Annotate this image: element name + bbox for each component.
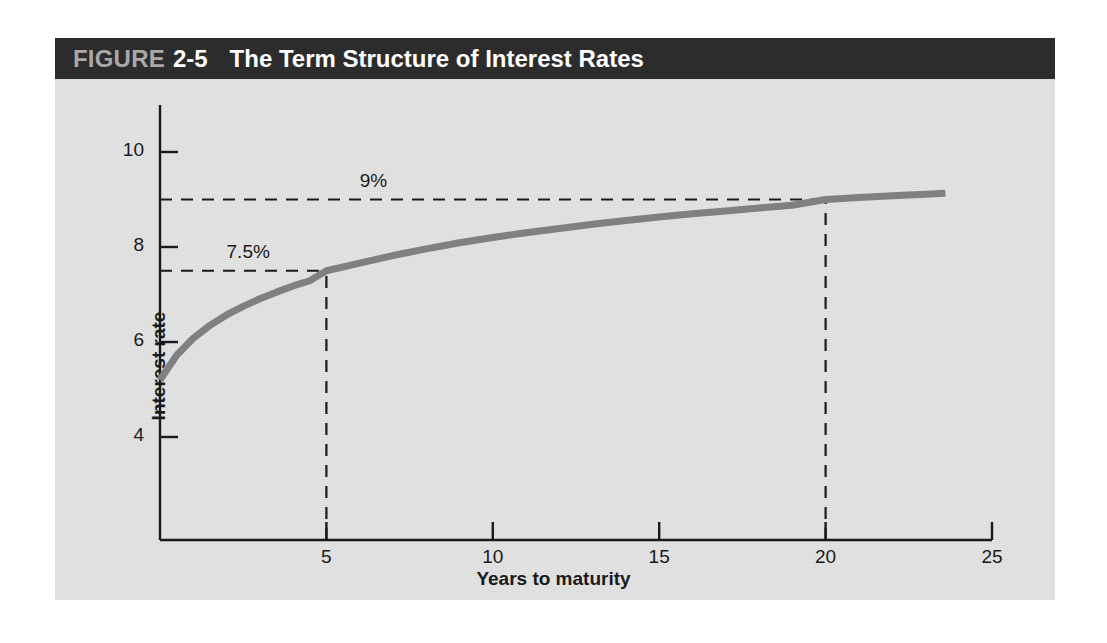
chart-canvas — [0, 0, 1107, 643]
figure-header-bar: FIGURE 2-5 The Term Structure of Interes… — [55, 38, 1055, 79]
figure-number: 2-5 — [173, 45, 208, 73]
figure-label-word: FIGURE — [73, 45, 165, 73]
chart-axes — [160, 105, 992, 540]
chart-series-group — [160, 193, 945, 380]
chart-reference-lines — [160, 200, 826, 541]
figure-title: The Term Structure of Interest Rates — [230, 45, 644, 73]
figure-container: FIGURE 2-5 The Term Structure of Interes… — [0, 0, 1107, 643]
series-line-0 — [160, 193, 945, 380]
